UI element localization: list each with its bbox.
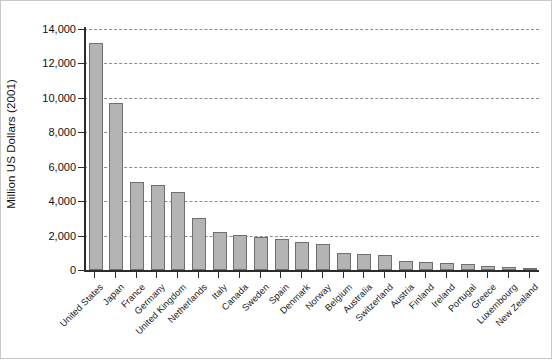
- x-axis-line: [84, 270, 539, 272]
- bar[interactable]: [233, 235, 247, 270]
- x-tick-mark: [363, 272, 364, 278]
- bar[interactable]: [89, 43, 103, 270]
- x-tick-mark: [343, 272, 344, 278]
- bar[interactable]: [523, 268, 537, 270]
- x-tick-mark: [405, 272, 406, 278]
- x-tick-mark: [177, 272, 178, 278]
- x-tick-mark: [384, 272, 385, 278]
- bar[interactable]: [254, 237, 268, 270]
- y-tick-label: 4,000: [48, 195, 76, 207]
- x-tick-mark: [467, 272, 468, 278]
- y-tick-label: 8,000: [48, 126, 76, 138]
- chart-figure: Million US Dollars (2001) 02,0004,0006,0…: [0, 0, 552, 359]
- bar[interactable]: [275, 239, 289, 270]
- bar[interactable]: [295, 242, 309, 270]
- y-tick-label: 12,000: [42, 57, 76, 69]
- bar[interactable]: [378, 255, 392, 270]
- y-axis-title: Million US Dollars (2001): [5, 19, 23, 269]
- x-tick-mark: [280, 272, 281, 278]
- y-tick-label: 6,000: [48, 161, 76, 173]
- x-tick-mark: [260, 272, 261, 278]
- x-tick-mark: [446, 272, 447, 278]
- bar[interactable]: [461, 264, 475, 270]
- x-tick-mark: [218, 272, 219, 278]
- x-tick-mark: [156, 272, 157, 278]
- x-tick-mark: [425, 272, 426, 278]
- x-tick-mark: [198, 272, 199, 278]
- bar[interactable]: [171, 192, 185, 270]
- bar[interactable]: [399, 261, 413, 270]
- bar[interactable]: [337, 253, 351, 270]
- bar[interactable]: [192, 218, 206, 271]
- bar[interactable]: [130, 182, 144, 270]
- bar[interactable]: [419, 262, 433, 270]
- bar[interactable]: [481, 266, 495, 270]
- bar[interactable]: [151, 185, 165, 270]
- y-tick-label: 2,000: [48, 230, 76, 242]
- bar[interactable]: [440, 263, 454, 270]
- y-tick-label: 10,000: [42, 92, 76, 104]
- bar[interactable]: [316, 244, 330, 270]
- x-tick-mark: [239, 272, 240, 278]
- bar[interactable]: [109, 103, 123, 270]
- x-tick-mark: [94, 272, 95, 278]
- y-tick-label: 0: [70, 264, 76, 276]
- x-tick-mark: [529, 272, 530, 278]
- x-tick-mark: [115, 272, 116, 278]
- x-tick-mark: [136, 272, 137, 278]
- bar[interactable]: [502, 267, 516, 270]
- x-tick-mark: [508, 272, 509, 278]
- plot-area: 02,0004,0006,0008,00010,00012,00014,000 …: [84, 29, 539, 270]
- x-tick-mark: [487, 272, 488, 278]
- x-tick-mark: [322, 272, 323, 278]
- y-tick-label: 14,000: [42, 23, 76, 35]
- bar-series: [84, 29, 539, 270]
- bar[interactable]: [357, 254, 371, 270]
- bar[interactable]: [213, 232, 227, 270]
- x-tick-mark: [301, 272, 302, 278]
